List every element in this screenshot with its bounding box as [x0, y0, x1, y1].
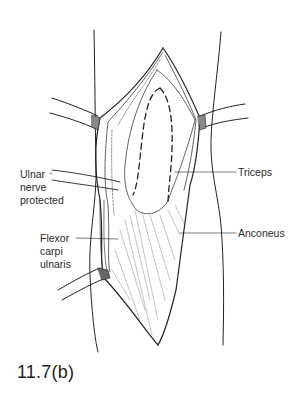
arm-outline-right: [211, 32, 224, 345]
surgical-illustration: Ulnar nerve protected Flexor carpi ulnar…: [0, 0, 305, 409]
triceps-muscle: [125, 70, 195, 214]
label-flexor-carpi-ulnaris: Flexor carpi ulnaris: [40, 232, 71, 271]
retractor-upper-right: [200, 104, 248, 128]
retractor-lower-left: [58, 268, 106, 300]
incision-edge-left: [96, 48, 163, 345]
leader-flexor: [76, 238, 118, 239]
figure-caption: 11.7(b): [17, 362, 74, 383]
label-triceps: Triceps: [238, 166, 272, 179]
label-ulnar-nerve: Ulnar nerve protected: [20, 168, 64, 207]
label-anconeus: Anconeus: [238, 227, 285, 240]
retractor-upper-left: [50, 98, 98, 129]
arm-outline-left: [90, 30, 98, 352]
